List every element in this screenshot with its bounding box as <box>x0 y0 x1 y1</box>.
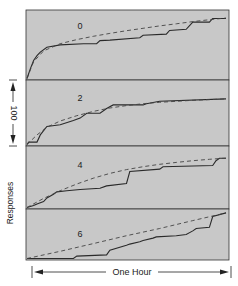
x-span-left-arrow-icon <box>34 270 43 275</box>
scale-bar-down-arrow-icon <box>11 135 16 144</box>
scale-bar-label: 100 <box>9 105 19 120</box>
panel-label: 6 <box>77 229 82 239</box>
panel-4: 4 <box>26 146 229 209</box>
panel-label: 0 <box>77 21 82 31</box>
panel-6: 6 <box>26 209 229 260</box>
panel-0: 0 <box>26 10 229 80</box>
panels-group: 0246 <box>26 10 229 260</box>
scale-bar-up-arrow-icon <box>11 82 16 91</box>
panel-background <box>26 80 229 146</box>
y-axis-label: Responses <box>5 182 15 225</box>
panel-label: 2 <box>77 93 82 103</box>
panel-background <box>26 146 229 209</box>
panel-label: 4 <box>77 160 82 170</box>
cumulative-response-figure: 0246 100 Responses One Hour <box>0 0 238 286</box>
x-axis-label: One Hour <box>112 267 151 277</box>
panel-2: 2 <box>26 80 229 146</box>
x-span-right-arrow-icon <box>220 270 229 275</box>
